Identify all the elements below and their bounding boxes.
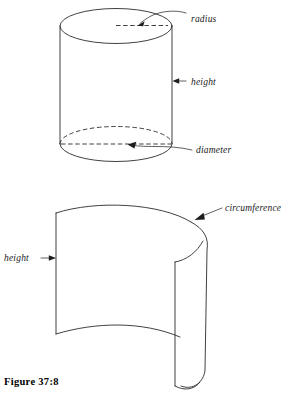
radius-arrowhead — [137, 21, 144, 26]
label-height-surface: height — [4, 253, 29, 263]
lower-height-arrowhead — [49, 255, 56, 261]
figure-illustration: radius height diameter — [0, 0, 298, 400]
circumference-leader-line — [202, 208, 222, 216]
surface-flap-fill — [175, 240, 205, 389]
figure-caption: Figure 37:8 — [4, 376, 59, 387]
surface-sheet-fill — [56, 205, 191, 334]
cylinder-diagram: radius height diameter — [60, 9, 231, 162]
label-diameter: diameter — [196, 145, 231, 155]
label-radius: radius — [191, 14, 217, 24]
height-arrowhead — [172, 78, 179, 84]
figure-canvas: radius height diameter — [0, 0, 298, 400]
unrolled-surface-diagram: height circumference — [4, 203, 281, 389]
label-height-cylinder: height — [191, 77, 216, 87]
surface-bottom-edge — [56, 325, 180, 337]
radius-leader-line — [140, 11, 186, 23]
cylinder-body-fill — [60, 26, 172, 161]
label-circumference: circumference — [225, 203, 281, 213]
circumference-arrowhead — [195, 213, 205, 220]
